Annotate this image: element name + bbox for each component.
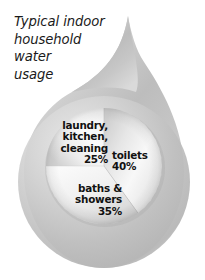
pie-label-baths-percent: 35% — [44, 206, 122, 217]
water-usage-infographic: Typical indoor household water usage lau… — [0, 0, 205, 280]
title-line-1: Typical indoor — [14, 13, 132, 31]
page-title: Typical indoor household water usage — [14, 13, 132, 83]
title-line-3: water — [14, 48, 132, 66]
pie-label-toilets-percent: 40% — [112, 161, 168, 172]
title-line-2: household — [14, 31, 132, 49]
pie-label-laundry: laundry, kitchen, cleaning 25% — [36, 120, 108, 166]
pie-label-laundry-percent: 25% — [36, 154, 108, 165]
pie-label-baths: baths & showers 35% — [44, 183, 122, 217]
title-line-4: usage — [14, 66, 132, 84]
pie-label-toilets: toilets 40% — [112, 150, 168, 173]
